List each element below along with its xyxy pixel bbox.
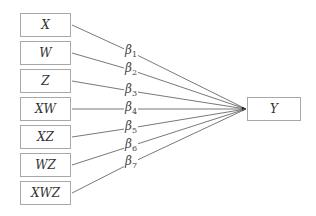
input-node-xz: XZ [20, 125, 71, 149]
input-label: W [39, 46, 51, 60]
beta-subscript: 6 [132, 144, 137, 153]
beta-symbol: β [125, 100, 132, 114]
input-node-x: X [20, 13, 71, 37]
beta-subscript: 2 [132, 68, 137, 77]
beta-symbol: β [125, 137, 132, 151]
beta-symbol: β [125, 43, 132, 57]
beta-subscript: 5 [132, 126, 137, 135]
coefficient-label: β4 [124, 101, 138, 118]
beta-subscript: 7 [132, 161, 137, 170]
coefficient-label: β7 [124, 155, 138, 172]
coefficient-label: β2 [124, 62, 138, 79]
output-node-y: Y [247, 97, 301, 121]
input-label: XWZ [31, 186, 60, 200]
output-label: Y [270, 102, 278, 116]
input-node-wz: WZ [20, 153, 71, 177]
beta-symbol: β [125, 119, 132, 133]
input-label: Z [41, 74, 49, 88]
coefficient-label: β1 [124, 44, 138, 61]
input-label: XW [35, 102, 56, 116]
input-node-xw: XW [20, 97, 71, 121]
edge-line [72, 25, 246, 109]
beta-subscript: 1 [132, 50, 137, 59]
beta-subscript: 4 [132, 107, 137, 116]
edge-line [72, 81, 246, 109]
input-node-z: Z [20, 69, 71, 93]
beta-subscript: 3 [132, 89, 137, 98]
input-node-w: W [20, 41, 71, 65]
edge-line [72, 109, 246, 193]
coefficient-label: β6 [124, 138, 138, 155]
input-label: XZ [37, 130, 54, 144]
input-node-xwz: XWZ [20, 181, 71, 205]
edge-line [72, 53, 246, 109]
coefficient-label: β5 [124, 120, 138, 137]
edge-line [72, 109, 246, 165]
beta-symbol: β [125, 154, 132, 168]
input-label: WZ [35, 158, 56, 172]
input-label: X [41, 18, 50, 32]
beta-symbol: β [125, 61, 132, 75]
edge-line [72, 109, 246, 137]
beta-symbol: β [125, 82, 132, 96]
coefficient-label: β3 [124, 83, 138, 100]
